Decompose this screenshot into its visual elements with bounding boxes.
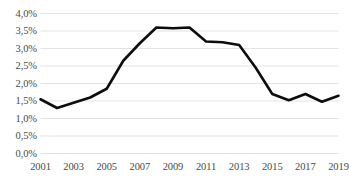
x-tick-label: 2003	[63, 162, 84, 173]
x-tick-label: 2015	[262, 162, 283, 173]
x-tick-label: 2001	[30, 162, 51, 173]
x-tick-label: 2017	[295, 162, 316, 173]
x-tick-label: 2009	[163, 162, 184, 173]
x-tick-label: 2007	[130, 162, 151, 173]
x-tick-label: 2005	[96, 162, 117, 173]
x-tick-label: 2019	[328, 162, 349, 173]
x-tick-label: 2011	[196, 162, 216, 173]
x-tick-label: 2013	[229, 162, 250, 173]
